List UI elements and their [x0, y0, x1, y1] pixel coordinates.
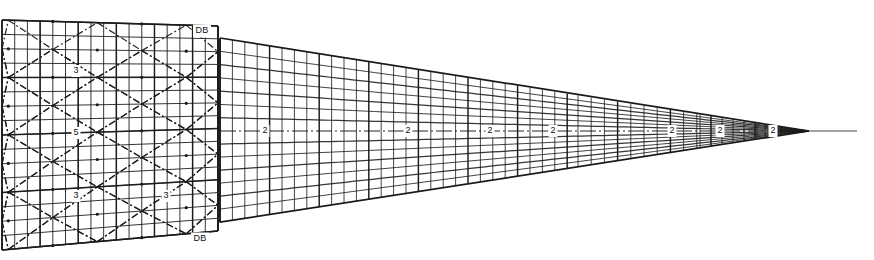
wedge-annotation-6: 2	[770, 125, 775, 135]
brace-node	[51, 20, 54, 23]
grid-line-horizontal-major	[2, 20, 218, 26]
brace-node	[51, 188, 54, 191]
brace-node	[51, 76, 54, 79]
wedge-bottom-edge	[220, 131, 809, 222]
wedge-annotation-0: 2	[262, 125, 267, 135]
brace-node	[185, 50, 188, 53]
brace-node	[96, 48, 99, 51]
brace-node	[7, 162, 10, 165]
brace-node	[7, 219, 10, 222]
brace-node	[7, 47, 10, 50]
left-panel-annotation-1: 5	[73, 127, 78, 137]
wedge-streamline-bottom	[220, 131, 809, 196]
brace-node	[185, 102, 188, 105]
wedge-streamline-top	[220, 78, 809, 131]
wedge-top-edge	[220, 38, 809, 131]
brace-node	[185, 206, 188, 209]
grid-line-horizontal	[2, 90, 218, 92]
left-panel-annotation-3: 3	[163, 190, 168, 200]
brace-node	[140, 129, 143, 132]
brace-node	[140, 236, 143, 239]
grid-line-horizontal	[2, 193, 218, 207]
wedge-streamline-bottom	[220, 131, 809, 209]
grid-line-horizontal	[2, 141, 218, 149]
grid-line-horizontal	[2, 167, 218, 178]
wedge-annotation-1: 2	[405, 125, 410, 135]
mesh-diagram-canvas: 3533DBDB2222222	[0, 0, 874, 260]
db-corner-label-1: DB	[194, 233, 207, 243]
brace-node	[96, 158, 99, 161]
left-panel-annotation-0: 3	[73, 65, 78, 75]
brace-node	[140, 22, 143, 25]
db-corner-label-0: DB	[196, 25, 209, 35]
grid-line-horizontal-major	[2, 231, 218, 250]
brace-node	[51, 132, 54, 135]
wedge-annotation-3: 2	[550, 125, 555, 135]
brace-node	[96, 213, 99, 216]
wedge-annotation-5: 2	[717, 125, 722, 135]
wedge-streamline-bottom	[220, 131, 809, 183]
wedge-annotation-2: 2	[487, 125, 492, 135]
wedge-annotation-4: 2	[669, 125, 674, 135]
brace-node	[51, 244, 54, 247]
wedge-streamline-top	[220, 51, 809, 131]
brace-node	[7, 105, 10, 108]
grid-line-horizontal	[2, 63, 218, 64]
left-panel-annotation-2: 3	[73, 190, 78, 200]
brace-node	[140, 76, 143, 79]
brace-diagonal	[186, 182, 218, 206]
brace-node	[140, 183, 143, 186]
mesh-drawing-svg: 3533DBDB2222222	[0, 0, 874, 260]
brace-node	[185, 154, 188, 157]
brace-node	[96, 103, 99, 106]
